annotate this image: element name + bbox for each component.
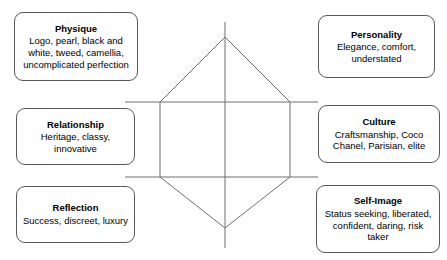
facet-self-image-body: Status seeking, liberated, confident, da… xyxy=(322,208,434,243)
facet-physique: Physique Logo, pearl, black and white, t… xyxy=(14,12,138,81)
facet-culture: Culture Craftsmanship, Coco Chanel, Pari… xyxy=(318,105,440,163)
facet-self-image-title: Self-Image xyxy=(354,195,402,207)
facet-reflection: Reflection Success, discreet, luxury xyxy=(16,186,135,243)
facet-reflection-title: Reflection xyxy=(53,202,99,214)
facet-culture-title: Culture xyxy=(362,116,395,128)
facet-self-image: Self-Image Status seeking, liberated, co… xyxy=(316,185,440,253)
facet-physique-title: Physique xyxy=(55,23,97,35)
brand-identity-prism-diagram: Physique Logo, pearl, black and white, t… xyxy=(0,0,447,260)
facet-relationship-title: Relationship xyxy=(47,119,104,131)
facet-personality: Personality Elegance, comfort, understat… xyxy=(318,15,435,78)
facet-personality-title: Personality xyxy=(351,29,402,41)
facet-personality-body: Elegance, comfort, understated xyxy=(324,41,429,64)
facet-physique-body: Logo, pearl, black and white, tweed, cam… xyxy=(20,35,132,70)
facet-culture-body: Craftsmanship, Coco Chanel, Parisian, el… xyxy=(324,129,434,152)
facet-relationship: Relationship Heritage, classy, innovativ… xyxy=(16,108,135,165)
facet-relationship-body: Heritage, classy, innovative xyxy=(22,131,129,154)
facet-reflection-body: Success, discreet, luxury xyxy=(23,215,128,227)
